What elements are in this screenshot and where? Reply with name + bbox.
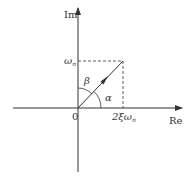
alpha-label: α (105, 93, 112, 103)
omega-n-label: ωn (64, 56, 76, 67)
alpha-arc (94, 92, 101, 109)
beta-label: β (84, 76, 90, 86)
beta-arc (78, 88, 92, 94)
two-zeta-omega-n-label: 2ξωn (112, 112, 136, 123)
imaginary-axis-label: Im (64, 10, 77, 20)
origin-label: 0 (72, 112, 78, 122)
real-axis-label: Re (169, 116, 182, 126)
complex-plane-diagram (0, 0, 193, 185)
